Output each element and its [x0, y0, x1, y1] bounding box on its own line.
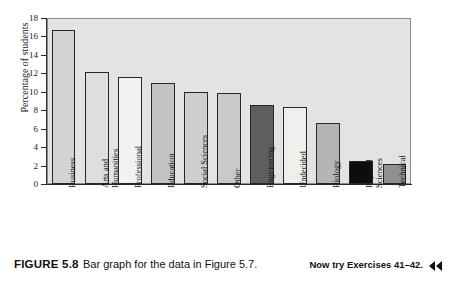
y-axis-tick [41, 184, 47, 185]
y-axis-tick [41, 110, 47, 111]
y-axis-tick [41, 36, 47, 37]
y-axis-tick [41, 55, 47, 56]
double-left-triangle-icon [429, 260, 447, 271]
y-axis-tick [41, 73, 47, 74]
x-axis-category-label: Arts and Humanities [101, 108, 120, 188]
y-axis-tick-label: 16 [18, 32, 38, 41]
y-axis-line [46, 18, 47, 185]
x-axis-category-label: Engineering [266, 108, 276, 188]
y-axis-tick [41, 18, 47, 19]
figure-caption-text: Bar graph for the data in Figure 5.7. [83, 258, 257, 270]
y-axis-tick-label: 12 [18, 69, 38, 78]
x-axis-category-label: Social Sciences [200, 108, 210, 188]
y-axis-tick [41, 92, 47, 93]
x-axis-category-label: Undecided [299, 108, 309, 188]
y-axis-tick-label: 14 [18, 51, 38, 60]
y-axis-tick-label: 0 [18, 180, 38, 189]
y-axis-tick-label: 10 [18, 88, 38, 97]
figure-container: Percentage of students 024681012141618 B… [0, 0, 461, 290]
y-axis-tick [41, 129, 47, 130]
y-axis-tick-label: 2 [18, 162, 38, 171]
figure-caption-row: FIGURE 5.8 Bar graph for the data in Fig… [0, 258, 461, 280]
y-axis-tick-label: 18 [18, 14, 38, 23]
y-axis-tick [41, 147, 47, 148]
y-axis-tick-label: 6 [18, 125, 38, 134]
x-axis-category-label: Technical [398, 108, 408, 188]
y-axis-tick-label: 8 [18, 106, 38, 115]
x-axis-category-label: Education [167, 108, 177, 188]
bar-chart: Percentage of students 024681012141618 B… [0, 0, 461, 250]
now-try-exercises-text: Now try Exercises 41–42. [309, 259, 423, 270]
x-axis-category-label: Physical Sciences [365, 108, 384, 188]
x-axis-category-label: Business [68, 108, 78, 188]
x-axis-category-label: Other [233, 108, 243, 188]
x-axis-category-label: Biology [332, 108, 342, 188]
figure-number-label: FIGURE 5.8 [14, 258, 79, 270]
y-axis-tick-label: 4 [18, 143, 38, 152]
x-axis-category-label: Professional [134, 108, 144, 188]
y-axis-tick [41, 166, 47, 167]
